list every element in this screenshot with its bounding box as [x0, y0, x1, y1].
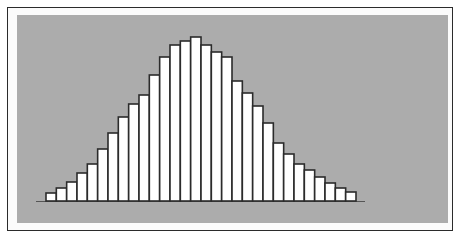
histogram-bar [232, 81, 242, 201]
histogram-bar [222, 57, 232, 201]
histogram-bar [346, 192, 356, 201]
histogram-bar [284, 154, 294, 201]
histogram-bar [253, 106, 263, 201]
histogram-bar [77, 173, 87, 201]
histogram-bar [242, 93, 252, 201]
histogram-bar [325, 183, 335, 201]
histogram-bar [201, 45, 211, 201]
histogram-bar [180, 41, 190, 201]
histogram-bar [87, 164, 97, 201]
histogram-bar [263, 123, 273, 201]
histogram-bar [315, 177, 325, 201]
histogram-bar [139, 95, 149, 201]
histogram-bar [304, 170, 314, 201]
histogram-bar [118, 117, 128, 201]
histogram-bar [98, 149, 108, 201]
histogram-bar [294, 164, 304, 201]
histogram-bar [46, 193, 56, 201]
histogram-bar [160, 57, 170, 201]
histogram-bar [67, 182, 77, 201]
histogram-bar [211, 52, 221, 201]
histogram-bar [335, 188, 345, 201]
histogram-bar [273, 143, 283, 201]
histogram-bar [108, 133, 118, 201]
histogram [0, 0, 461, 240]
histogram-bar [56, 188, 66, 201]
histogram-bar [170, 45, 180, 201]
histogram-bar [191, 37, 201, 201]
histogram-bar [129, 104, 139, 201]
histogram-bar [149, 75, 159, 201]
